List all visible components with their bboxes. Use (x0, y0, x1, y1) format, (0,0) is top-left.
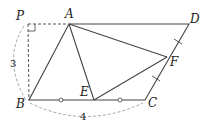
label-A: A (64, 7, 74, 21)
label-F: F (169, 55, 179, 69)
geometry-diagram: P A D B C E F 3 4 (0, 0, 208, 125)
label-P: P (15, 9, 25, 23)
segment-PB (28, 24, 29, 100)
equal-mark-EC (118, 98, 122, 102)
label-E: E (79, 85, 89, 99)
label-D: D (189, 12, 200, 26)
height-label: 3 (10, 58, 16, 69)
segment-AF (69, 24, 167, 57)
trapezoid-ABCD (29, 24, 189, 100)
right-angle-mark (28, 24, 35, 31)
base-label: 4 (80, 111, 86, 122)
label-B: B (15, 97, 25, 111)
base-brace (30, 103, 143, 117)
label-C: C (148, 96, 157, 110)
equal-mark-BE (59, 98, 63, 102)
